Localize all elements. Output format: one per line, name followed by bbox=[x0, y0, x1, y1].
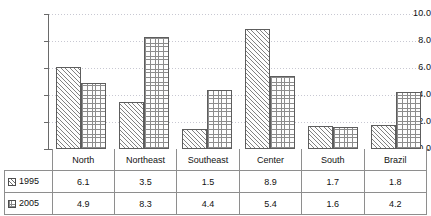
table-cell-2005-north: 4.9 bbox=[52, 193, 114, 215]
legend-label-1995: 1995 bbox=[19, 177, 39, 186]
bar-1995-north bbox=[56, 67, 81, 149]
legend-entry-2005: 2005 bbox=[5, 193, 53, 215]
legend-inner: 2005 bbox=[8, 199, 52, 208]
column-header-brazil: Brazil bbox=[364, 149, 426, 171]
column-header-north: North bbox=[52, 149, 114, 171]
bar-chart-figure: 10.08.06.04.02.00.0 NorthNortheastSouthe… bbox=[0, 0, 431, 216]
bar-1995-brazil bbox=[371, 125, 396, 149]
table-corner-spacer bbox=[5, 149, 53, 171]
legend-swatch-1995-icon bbox=[8, 178, 16, 186]
plot-area: 10.08.06.04.02.00.0 bbox=[0, 0, 431, 152]
bar-2005-southeast bbox=[207, 90, 232, 149]
bar-1995-center bbox=[245, 29, 270, 149]
bar-2005-brazil bbox=[396, 92, 421, 149]
bar-1995-south bbox=[308, 126, 333, 149]
table-cell-1995-southeast: 1.5 bbox=[177, 171, 239, 193]
table-cell-1995-south: 1.7 bbox=[302, 171, 364, 193]
table-row: 19956.13.51.58.91.71.8 bbox=[5, 171, 427, 193]
table-row: 20054.98.34.45.41.64.2 bbox=[5, 193, 427, 215]
data-table: NorthNortheastSoutheastCenterSouthBrazil… bbox=[4, 149, 427, 215]
column-header-northeast: Northeast bbox=[114, 149, 176, 171]
table-cell-1995-north: 6.1 bbox=[52, 171, 114, 193]
column-header-southeast: Southeast bbox=[177, 149, 239, 171]
bar-1995-northeast bbox=[119, 102, 144, 149]
bars-layer bbox=[0, 0, 431, 152]
bar-2005-northeast bbox=[144, 37, 169, 149]
bar-2005-center bbox=[270, 76, 295, 149]
legend-entry-1995: 1995 bbox=[5, 171, 53, 193]
table-cell-2005-center: 5.4 bbox=[239, 193, 301, 215]
table-cell-2005-brazil: 4.2 bbox=[364, 193, 426, 215]
table-cell-1995-brazil: 1.8 bbox=[364, 171, 426, 193]
bar-1995-southeast bbox=[182, 129, 207, 149]
legend-inner: 1995 bbox=[8, 177, 52, 186]
table-cell-1995-center: 8.9 bbox=[239, 171, 301, 193]
column-header-center: Center bbox=[239, 149, 301, 171]
table-cell-2005-southeast: 4.4 bbox=[177, 193, 239, 215]
table-cell-1995-northeast: 3.5 bbox=[114, 171, 176, 193]
legend-label-2005: 2005 bbox=[19, 199, 39, 208]
bar-2005-north bbox=[81, 83, 106, 149]
table-cell-2005-northeast: 8.3 bbox=[114, 193, 176, 215]
bar-2005-south bbox=[333, 127, 358, 149]
table-cell-2005-south: 1.6 bbox=[302, 193, 364, 215]
legend-swatch-2005-icon bbox=[8, 200, 16, 208]
data-table-body: NorthNortheastSoutheastCenterSouthBrazil… bbox=[5, 149, 427, 215]
table-header-row: NorthNortheastSoutheastCenterSouthBrazil bbox=[5, 149, 427, 171]
column-header-south: South bbox=[302, 149, 364, 171]
